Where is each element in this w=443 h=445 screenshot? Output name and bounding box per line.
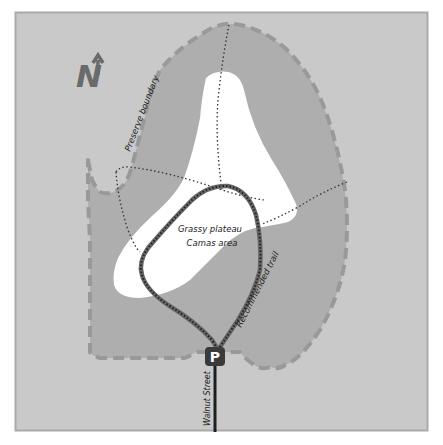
parking-letter: P xyxy=(210,349,220,365)
plateau-label-line2: Camas area xyxy=(187,238,238,248)
parking-badge[interactable]: P xyxy=(205,347,225,366)
walnut-street-label: Walnut Street xyxy=(203,370,212,426)
plateau-label-line1: Grassy plateau xyxy=(178,224,242,234)
north-arrow-icon: N xyxy=(76,55,103,94)
preserve-map: P N Preserve boundary Grassy plateau Cam… xyxy=(0,0,443,445)
